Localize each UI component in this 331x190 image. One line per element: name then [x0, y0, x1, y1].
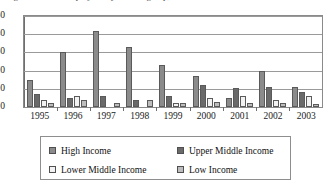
- bar: [93, 31, 99, 107]
- bar: [67, 98, 73, 107]
- bar: [306, 96, 312, 107]
- x-axis-tick-label: 2000: [190, 111, 223, 121]
- bar: [233, 88, 239, 107]
- legend-swatch-icon: [49, 147, 56, 154]
- x-axis-tick-label: 1999: [156, 111, 189, 121]
- bar: [207, 98, 213, 107]
- x-axis-tick-label: 1998: [123, 111, 156, 121]
- bar: [193, 76, 199, 107]
- bar: [147, 100, 153, 107]
- x-axis-tick-label: 2003: [290, 111, 323, 121]
- bar: [313, 104, 319, 107]
- bar: [280, 103, 286, 107]
- legend-swatch-icon: [177, 147, 184, 154]
- bar: [133, 100, 139, 107]
- x-axis-tick-label: 1995: [23, 111, 56, 121]
- plot-area: [23, 15, 323, 108]
- legend-label: Upper Middle Income: [189, 146, 273, 156]
- legend-label: Low Income: [189, 165, 237, 175]
- bar: [114, 103, 120, 107]
- legend-label: High Income: [61, 146, 111, 156]
- bar: [27, 80, 33, 107]
- bar: [299, 92, 305, 107]
- chart-legend: High IncomeUpper Middle IncomeLower Midd…: [40, 136, 291, 180]
- x-axis-tick-label: 1997: [90, 111, 123, 121]
- bar: [81, 100, 87, 107]
- bar: [41, 100, 47, 107]
- bar-group: [123, 16, 156, 107]
- bar-group: [57, 16, 90, 107]
- bar: [60, 52, 66, 107]
- legend-item[interactable]: Upper Middle Income: [177, 146, 297, 156]
- bar-group: [190, 16, 223, 107]
- bar: [34, 94, 40, 107]
- chart-figure: Figure: Number of projects by income gro…: [0, 0, 331, 190]
- chart-title-text: Figure: Number of projects by income gro…: [6, 0, 211, 1]
- bar-group: [24, 16, 57, 107]
- x-axis-tick-label: 1996: [56, 111, 89, 121]
- bar-group: [223, 16, 256, 107]
- bar: [273, 100, 279, 107]
- x-axis-tick-label: 2002: [256, 111, 289, 121]
- bar: [259, 71, 265, 107]
- bar-group: [289, 16, 322, 107]
- bar: [200, 85, 206, 107]
- x-axis-tick-label: 2001: [223, 111, 256, 121]
- y-axis-tick-label: 30: [0, 47, 5, 56]
- bar: [74, 96, 80, 107]
- bar: [48, 103, 54, 107]
- bar: [126, 47, 132, 107]
- bar-group: [90, 16, 123, 107]
- bar: [166, 96, 172, 107]
- bar: [214, 102, 220, 107]
- chart-title-cropped: Figure: Number of projects by income gro…: [0, 0, 331, 7]
- x-axis-tick-labels: 199519961997199819992000200120022003: [23, 111, 323, 121]
- bar-group: [256, 16, 289, 107]
- y-axis-tick-label: 20: [0, 66, 5, 75]
- bar: [266, 87, 272, 107]
- bar: [100, 96, 106, 107]
- bar: [226, 98, 232, 107]
- bar-groups: [24, 16, 322, 107]
- y-axis-tick-label: 40: [0, 29, 5, 38]
- y-axis-tick-label: 0: [0, 102, 5, 111]
- legend-label: Lower Middle Income: [61, 165, 146, 175]
- legend-swatch-icon: [177, 166, 184, 173]
- y-axis-tick-label: 50: [0, 11, 5, 20]
- legend-item[interactable]: Lower Middle Income: [49, 165, 177, 175]
- bar: [173, 103, 179, 107]
- legend-item[interactable]: High Income: [49, 146, 177, 156]
- y-axis-tick-label: 10: [0, 84, 5, 93]
- bar: [247, 103, 253, 107]
- bar-group: [156, 16, 189, 107]
- bar: [159, 65, 165, 107]
- bar: [292, 87, 298, 107]
- bar: [180, 103, 186, 107]
- legend-swatch-icon: [49, 166, 56, 173]
- bar: [240, 96, 246, 107]
- legend-item[interactable]: Low Income: [177, 165, 297, 175]
